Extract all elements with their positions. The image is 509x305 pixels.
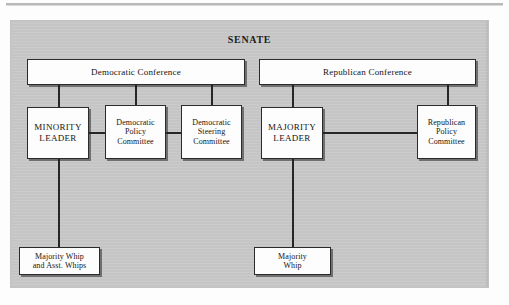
node-democratic-policy-committee-line-2: Policy xyxy=(116,127,154,136)
connector-minority-leader-to-whips xyxy=(58,159,60,247)
node-democratic-steering-committee-line-3: Committee xyxy=(192,137,230,146)
node-democratic-policy-committee-line-3: Committee xyxy=(116,137,154,146)
connector-democratic-conference-to-minority-leader xyxy=(58,85,60,107)
node-republican-whip[interactable]: Majority Whip xyxy=(254,247,331,275)
page-title: SENATE xyxy=(11,34,488,45)
page-top-rule-secondary xyxy=(6,5,503,6)
connector-minority-leader-to-policy-committee xyxy=(89,132,105,134)
connector-democratic-conference-to-policy-committee xyxy=(135,85,137,107)
node-republican-policy-committee-line-1: Republican xyxy=(428,118,465,127)
connector-democratic-conference-to-steering-committee xyxy=(211,85,213,107)
node-democratic-whip-line-2: and Asst. Whips xyxy=(33,261,87,270)
node-democratic-steering-committee-line-1: Democratic xyxy=(192,118,230,127)
connector-policy-committee-to-steering-committee xyxy=(166,132,181,134)
node-democratic-steering-committee-line-2: Steering xyxy=(192,127,230,136)
node-majority-leader[interactable]: MAJORITY LEADER xyxy=(261,107,323,159)
node-majority-leader-line-2: LEADER xyxy=(268,133,316,144)
node-republican-policy-committee-line-3: Committee xyxy=(428,137,465,146)
node-democratic-policy-committee-line-1: Democratic xyxy=(116,118,154,127)
node-minority-leader-line-2: LEADER xyxy=(34,133,81,144)
node-democratic-whip-line-1: Majority Whip xyxy=(33,252,87,261)
node-republican-policy-committee-line-2: Policy xyxy=(428,127,465,136)
node-republican-conference-label: Republican Conference xyxy=(323,67,412,78)
connector-republican-conference-to-policy-committee xyxy=(447,85,449,107)
node-democratic-whip[interactable]: Majority Whip and Asst. Whips xyxy=(19,247,100,275)
node-republican-conference[interactable]: Republican Conference xyxy=(259,59,476,85)
org-chart-panel: SENATE Democratic Conference MINORITY LE… xyxy=(11,21,488,287)
node-minority-leader[interactable]: MINORITY LEADER xyxy=(27,107,89,159)
scanned-page: SENATE Democratic Conference MINORITY LE… xyxy=(0,0,509,305)
node-democratic-conference[interactable]: Democratic Conference xyxy=(27,59,245,85)
node-majority-leader-line-1: MAJORITY xyxy=(268,122,316,133)
node-republican-whip-line-2: Whip xyxy=(278,261,307,270)
connector-majority-leader-to-republican-policy-committee xyxy=(323,132,417,134)
connector-republican-conference-to-majority-leader xyxy=(292,85,294,107)
node-republican-policy-committee[interactable]: Republican Policy Committee xyxy=(417,105,476,159)
node-minority-leader-line-1: MINORITY xyxy=(34,122,81,133)
node-republican-whip-line-1: Majority xyxy=(278,252,307,261)
connector-majority-leader-to-whip xyxy=(292,159,294,247)
node-democratic-steering-committee[interactable]: Democratic Steering Committee xyxy=(181,105,242,159)
node-democratic-conference-label: Democratic Conference xyxy=(91,67,181,78)
node-democratic-policy-committee[interactable]: Democratic Policy Committee xyxy=(105,105,166,159)
